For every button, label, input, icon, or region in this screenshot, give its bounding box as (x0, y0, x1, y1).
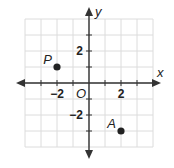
point-p (53, 63, 60, 70)
y-axis-up-arrow-icon (85, 7, 93, 16)
y-axis-label: y (94, 4, 103, 19)
origin-label: O (76, 86, 86, 101)
y-tick-label: −2 (69, 108, 83, 122)
x-axis-left-arrow-icon (16, 79, 25, 87)
x-tick-label: −2 (50, 87, 64, 101)
point-a (117, 127, 124, 134)
point-label-p: P (43, 52, 52, 67)
y-axis-down-arrow-icon (85, 150, 93, 159)
x-axis-right-arrow-icon (152, 79, 161, 87)
coordinate-plane: x y O −222−2 PA (0, 0, 174, 168)
y-tick-label: 2 (76, 44, 83, 58)
x-axis-label: x (156, 65, 164, 80)
axes (16, 7, 161, 159)
x-tick-label: 2 (118, 87, 125, 101)
point-label-a: A (106, 116, 116, 131)
